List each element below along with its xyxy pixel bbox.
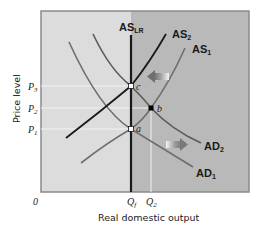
origin-label: 0 [33,196,38,207]
y-axis-title: Price level [11,74,22,123]
point-c-marker [129,84,134,89]
point-a-label: a [136,123,141,134]
qf-tick-label: Qf [127,196,137,209]
p3-tick-label: P3 [27,81,38,94]
point-a-marker [129,127,134,132]
point-c-label: c [136,81,141,92]
x-axis-title: Real domestic output [98,212,200,223]
q2-tick-label: Q2 [146,196,157,209]
point-b-marker [149,106,154,111]
point-b-label: b [157,103,162,114]
p2-tick-label: P2 [27,103,38,116]
left-region [41,11,131,192]
p1-tick-label: P1 [27,124,38,137]
aggregate-demand-supply-diagram: c b a ASLR AS2 AS1 AD2 AD1 P3 P2 P1 0 Qf… [0,0,264,230]
